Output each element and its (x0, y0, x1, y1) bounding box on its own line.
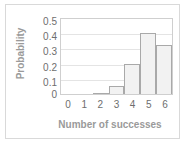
chart-screenshot: Probability 0.5 0.4 0.3 0.2 0.1 0 (0, 0, 185, 144)
y-axis-tick-label: 0.1 (31, 78, 57, 88)
x-axis-title: Number of successes (40, 119, 180, 130)
x-axis-tick-label: 4 (125, 99, 141, 113)
bar-cell (77, 19, 93, 94)
bar-cell (124, 19, 140, 94)
bar (140, 33, 156, 95)
bar (109, 86, 125, 94)
bar-cell (140, 19, 156, 94)
x-axis-tick-labels: 0 1 2 3 4 5 6 (60, 99, 173, 113)
plot-area (60, 18, 173, 95)
bar-cell (93, 19, 109, 94)
y-axis-tick-label: 0.5 (31, 17, 57, 27)
bar (93, 93, 109, 94)
x-axis-tick-label: 0 (60, 99, 76, 113)
y-axis-title: Probability (15, 14, 26, 94)
x-axis-tick-label: 5 (141, 99, 157, 113)
bar-cell (156, 19, 172, 94)
bar (156, 45, 172, 95)
y-axis-tick-label: 0.3 (31, 47, 57, 57)
y-axis-tick-label: 0.4 (31, 32, 57, 42)
x-axis-tick-label: 1 (76, 99, 92, 113)
y-axis-tick-labels: 0.5 0.4 0.3 0.2 0.1 0 (31, 17, 57, 95)
x-axis-tick-label: 6 (157, 99, 173, 113)
bar (124, 64, 140, 94)
x-axis-tick-label: 2 (92, 99, 108, 113)
y-axis-tick-label: 0.2 (31, 63, 57, 73)
y-axis-tick-label: 0 (31, 90, 57, 100)
x-axis-tick-label: 3 (108, 99, 124, 113)
bar-cell (109, 19, 125, 94)
chart-figure: Probability 0.5 0.4 0.3 0.2 0.1 0 (0, 0, 185, 144)
bar-cell (61, 19, 77, 94)
bar-series (61, 19, 172, 94)
